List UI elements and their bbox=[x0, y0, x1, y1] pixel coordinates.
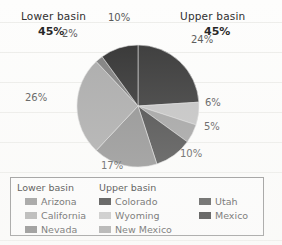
legend-box: Lower basin Upper basin Arizona Californ… bbox=[10, 177, 264, 236]
legend-item-utah[interactable]: Utah bbox=[199, 196, 238, 207]
legend-item-california[interactable]: California bbox=[25, 210, 86, 221]
legend-item-nevada[interactable]: Nevada bbox=[25, 224, 77, 235]
legend-swatch-icon bbox=[99, 226, 111, 233]
legend-item-mexico[interactable]: Mexico bbox=[199, 210, 248, 221]
legend-title-lower-basin: Lower basin bbox=[17, 182, 74, 193]
paper-rule-line bbox=[0, 22, 282, 23]
legend-swatch-icon bbox=[199, 212, 211, 219]
legend-label: Colorado bbox=[115, 196, 157, 207]
legend-label: California bbox=[41, 210, 86, 221]
legend-label: Utah bbox=[215, 196, 238, 207]
legend-swatch-icon bbox=[25, 198, 37, 205]
lower-basin-total: 45% bbox=[38, 25, 64, 38]
paper-rule-line bbox=[0, 240, 282, 241]
legend-item-colorado[interactable]: Colorado bbox=[99, 196, 157, 207]
slice-label-nevada: 2% bbox=[62, 28, 78, 39]
slice-label-new-mexico: 5% bbox=[204, 121, 220, 132]
slice-label-colorado: 24% bbox=[191, 34, 213, 45]
legend-swatch-icon bbox=[99, 212, 111, 219]
legend-item-new-mexico[interactable]: New Mexico bbox=[99, 224, 172, 235]
paper-rule-line bbox=[0, 172, 282, 173]
legend-swatch-icon bbox=[25, 212, 37, 219]
slice-label-arizona: 17% bbox=[101, 160, 123, 171]
legend-item-arizona[interactable]: Arizona bbox=[25, 196, 77, 207]
figure-canvas: Lower basin 45% Upper basin 45% 10% 2% 2… bbox=[0, 0, 282, 245]
slice-label-mexico: 10% bbox=[108, 12, 130, 23]
legend-label: New Mexico bbox=[115, 224, 172, 235]
slice-label-utah: 10% bbox=[180, 148, 202, 159]
legend-swatch-icon bbox=[99, 198, 111, 205]
lower-basin-heading: Lower basin bbox=[21, 10, 86, 22]
upper-basin-heading: Upper basin bbox=[180, 10, 245, 22]
legend-swatch-icon bbox=[25, 226, 37, 233]
slice-label-california: 26% bbox=[25, 92, 47, 103]
legend-label: Wyoming bbox=[115, 210, 160, 221]
legend-item-wyoming[interactable]: Wyoming bbox=[99, 210, 160, 221]
legend-label: Nevada bbox=[41, 224, 77, 235]
legend-label: Arizona bbox=[41, 196, 77, 207]
slice-label-wyoming: 6% bbox=[205, 97, 221, 108]
legend-title-upper-basin: Upper basin bbox=[99, 182, 156, 193]
pie-slice-colorado[interactable] bbox=[138, 45, 199, 106]
legend-swatch-icon bbox=[199, 198, 211, 205]
legend-label: Mexico bbox=[215, 210, 248, 221]
